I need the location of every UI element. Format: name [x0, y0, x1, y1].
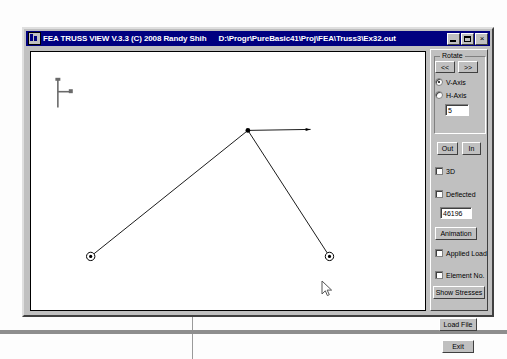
window-title: FEA TRUSS VIEW V.3.3 (C) 2008 Randy Shih: [43, 34, 206, 43]
rotate-step-input[interactable]: 5: [445, 104, 469, 116]
minimize-icon: [450, 40, 456, 42]
close-button[interactable]: ×: [475, 33, 488, 45]
checkbox-deflected-mark: [435, 190, 443, 198]
load-file-button[interactable]: Load File: [439, 318, 477, 331]
rotate-group-title: Rotate: [440, 52, 465, 59]
axis-origin-icon: [55, 78, 72, 108]
radio-h-axis-mark: [435, 91, 443, 99]
animation-button[interactable]: Animation: [435, 227, 477, 240]
radio-v-axis[interactable]: V-Axis: [435, 78, 466, 86]
page-background: FEA TRUSS VIEW V.3.3 (C) 2008 Randy Shih…: [0, 0, 507, 359]
deflection-scale-input[interactable]: 46196: [440, 207, 472, 219]
radio-h-axis[interactable]: H-Axis: [435, 91, 467, 99]
checkbox-3d-mark: [435, 167, 443, 175]
maximize-icon: [464, 36, 471, 42]
close-icon: ×: [479, 36, 485, 42]
checkbox-applied-load[interactable]: Applied Load: [435, 249, 487, 257]
rotate-next-button[interactable]: >>: [458, 61, 478, 73]
checkbox-3d[interactable]: 3D: [435, 167, 455, 175]
truss-nodes: [87, 128, 334, 261]
radio-h-axis-label: H-Axis: [446, 92, 467, 99]
exit-button[interactable]: Exit: [442, 340, 474, 353]
truss-member-2: [248, 130, 330, 256]
fea-truss-view-window: FEA TRUSS VIEW V.3.3 (C) 2008 Randy Shih…: [22, 27, 494, 317]
control-panel: Rotate << >> V-Axis H-Axis 5 Out In 3D D…: [430, 49, 488, 311]
maximize-button[interactable]: [461, 33, 474, 45]
checkbox-deflected[interactable]: Deflected: [435, 190, 476, 198]
title-bar[interactable]: FEA TRUSS VIEW V.3.3 (C) 2008 Randy Shih…: [26, 31, 490, 46]
background-horizontal-band: [0, 330, 507, 334]
zoom-out-button[interactable]: Out: [437, 142, 458, 155]
minimize-button[interactable]: [447, 33, 460, 45]
background-vertical-line: [192, 317, 193, 359]
checkbox-applied-load-mark: [435, 249, 443, 257]
radio-v-axis-mark: [435, 78, 443, 86]
rotate-prev-button[interactable]: <<: [435, 61, 455, 73]
window-file-path: D:\Progr\PureBasic41\Proj\FEA\Truss3\Ex3…: [218, 34, 395, 43]
truss-members: [91, 130, 330, 256]
window-controls: ×: [447, 33, 489, 45]
app-icon: [28, 32, 41, 45]
checkbox-deflected-label: Deflected: [446, 191, 476, 198]
zoom-in-button[interactable]: In: [462, 142, 481, 155]
checkbox-applied-load-label: Applied Load: [446, 250, 487, 257]
checkbox-element-no-label: Element No.: [446, 272, 485, 279]
truss-diagram: [31, 52, 425, 310]
load-arrow: [248, 128, 311, 131]
show-stresses-button[interactable]: Show Stresses: [433, 286, 485, 299]
checkbox-3d-label: 3D: [446, 168, 455, 175]
checkbox-element-no-mark: [435, 271, 443, 279]
checkbox-element-no[interactable]: Element No.: [435, 271, 485, 279]
truss-member-1: [91, 130, 248, 256]
radio-v-axis-label: V-Axis: [446, 79, 466, 86]
truss-drawing-canvas[interactable]: [30, 51, 426, 311]
